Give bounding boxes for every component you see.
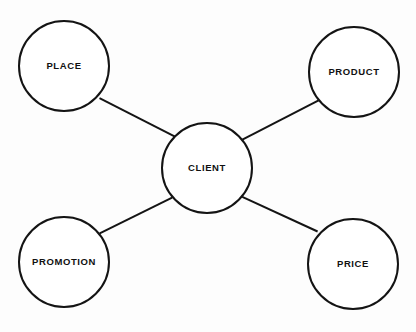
edge-promotion-client [100, 198, 172, 234]
relationship-diagram: PLACE PRODUCT PROMOTION PRICE CLIENT [0, 0, 416, 332]
edge-place-client [100, 98, 176, 137]
place-label: PLACE [46, 60, 81, 71]
product-label: PRODUCT [328, 66, 379, 77]
price-label: PRICE [337, 258, 369, 269]
edge-client-price [242, 197, 317, 232]
client-label: CLIENT [188, 162, 226, 173]
promotion-label: PROMOTION [32, 256, 96, 267]
node-place[interactable]: PLACE [19, 21, 109, 111]
node-client[interactable]: CLIENT [162, 123, 252, 213]
node-price[interactable]: PRICE [308, 219, 398, 309]
node-promotion[interactable]: PROMOTION [19, 217, 109, 307]
diagram-canvas: PLACE PRODUCT PROMOTION PRICE CLIENT [0, 0, 416, 332]
node-product[interactable]: PRODUCT [309, 27, 399, 117]
edge-client-product [242, 100, 318, 139]
